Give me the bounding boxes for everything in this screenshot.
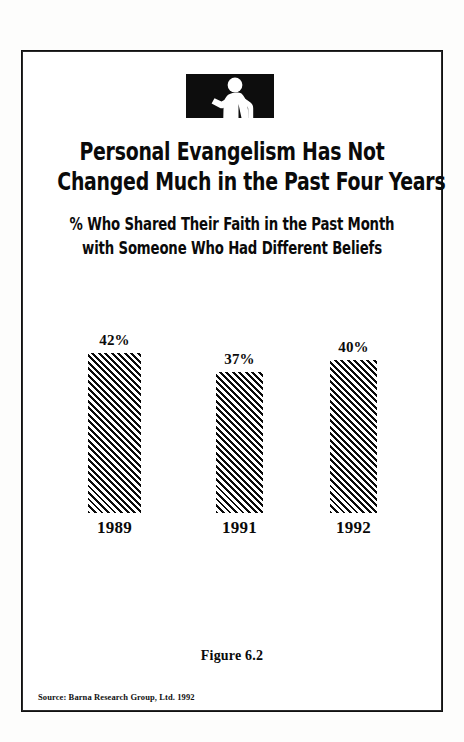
chart-title-line-1: Personal Evangelism Has Not xyxy=(57,137,406,167)
bar-category-label-1: 1991 xyxy=(222,518,257,538)
bar-group-1: 37% 1991 xyxy=(216,372,263,513)
chart-title: Personal Evangelism Has Not Changed Much… xyxy=(24,137,440,197)
bar-column-1: 37% 1991 xyxy=(216,372,263,513)
bar-group-0: 42% 1989 xyxy=(88,353,141,513)
running-person-icon xyxy=(186,74,274,118)
bar-column-2: 40% 1992 xyxy=(330,360,377,513)
bar-value-label-2: 40% xyxy=(338,339,369,356)
bar-value-label-0: 42% xyxy=(99,332,130,349)
bar-column-0: 42% 1989 xyxy=(88,353,141,513)
figure-caption: Figure 6.2 xyxy=(21,648,443,664)
scanned-page: Personal Evangelism Has Not Changed Much… xyxy=(0,0,464,742)
bar-group-2: 40% 1992 xyxy=(330,360,377,513)
bar-category-label-2: 1992 xyxy=(336,518,371,538)
bar-category-label-0: 1989 xyxy=(97,518,132,538)
chart-subtitle-line-2: with Someone Who Had Different Beliefs xyxy=(61,236,402,260)
table-row xyxy=(88,353,141,513)
bar-value-label-1: 37% xyxy=(224,351,255,368)
chart-title-line-2: Changed Much in the Past Four Years xyxy=(57,167,406,197)
bar-chart-plot: 42% 1989 37% 1991 40% 1992 xyxy=(21,300,443,545)
table-row xyxy=(330,360,377,513)
chart-subtitle: % Who Shared Their Faith in the Past Mon… xyxy=(24,212,440,260)
table-row xyxy=(216,372,263,513)
source-note: Source: Barna Research Group, Ltd. 1992 xyxy=(38,692,195,702)
chart-subtitle-line-1: % Who Shared Their Faith in the Past Mon… xyxy=(61,212,402,236)
